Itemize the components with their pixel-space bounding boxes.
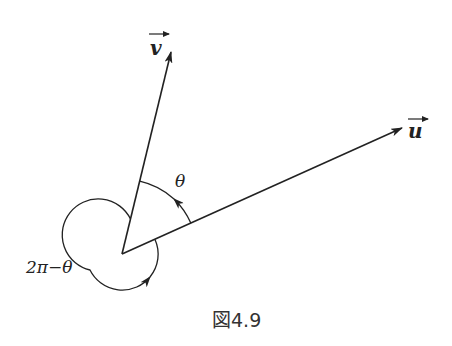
- reflex-angle-arc: [62, 199, 150, 290]
- vector-v-line: [122, 52, 171, 254]
- vector-angle-diagram: v u θ 2π−θ 図4.9: [0, 0, 452, 346]
- figure-caption: 図4.9: [212, 309, 261, 331]
- reflex-angle-arc-end: [150, 240, 158, 278]
- theta-arc: [174, 199, 191, 223]
- reflex-angle-label: 2π−θ: [25, 257, 72, 277]
- vector-v-label: v: [150, 36, 162, 60]
- vector-u-label: u: [408, 119, 423, 143]
- theta-arc-rest: [140, 181, 174, 199]
- theta-label: θ: [175, 171, 185, 191]
